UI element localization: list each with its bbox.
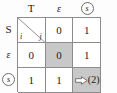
annotated-cell-value: (2) xyxy=(88,75,100,85)
table-cell: 1 xyxy=(73,18,101,43)
column-header-epsilon: ε xyxy=(45,0,73,17)
table-row: i j 0 1 xyxy=(18,18,101,43)
table-grid: i j 0 1 0 0 1 1 1 (2) xyxy=(17,17,101,92)
row-index-label: i xyxy=(20,33,22,41)
table-cell: 0 xyxy=(18,43,46,68)
table-cell-highlighted: 0 xyxy=(46,43,74,68)
row-header-s-nonterminal: S xyxy=(0,17,17,42)
column-header-row: T ε s xyxy=(17,0,117,17)
cell-index-split: i j xyxy=(18,18,46,43)
column-header-s-label: s xyxy=(81,2,94,15)
table-cell-annotated: (2) xyxy=(73,68,101,93)
table-cell: 1 xyxy=(18,68,46,93)
row-header-epsilon: ε xyxy=(0,42,17,67)
table-row: 0 0 1 xyxy=(18,43,101,68)
column-header-epsilon-label: ε xyxy=(57,4,61,14)
row-header-column: S ε s xyxy=(0,17,17,93)
row-header-s-circled: s xyxy=(0,67,17,92)
row-header-s-nonterminal-label: S xyxy=(5,24,11,35)
table-cell: 1 xyxy=(73,43,101,68)
right-arrow-icon xyxy=(75,76,88,85)
table-row: 1 1 (2) xyxy=(18,68,101,93)
table-cell: 0 xyxy=(46,18,74,43)
column-header-t: T xyxy=(17,0,45,17)
row-header-s-circled-label: s xyxy=(2,73,15,86)
annotation-group: (2) xyxy=(73,75,100,85)
column-header-t-label: T xyxy=(28,3,35,14)
column-header-s: s xyxy=(73,0,101,17)
col-index-label: j xyxy=(39,33,41,41)
table-cell: 1 xyxy=(46,68,74,93)
row-header-epsilon-label: ε xyxy=(7,50,11,60)
parse-table-figure: T ε s S ε s i j 0 xyxy=(0,0,117,93)
